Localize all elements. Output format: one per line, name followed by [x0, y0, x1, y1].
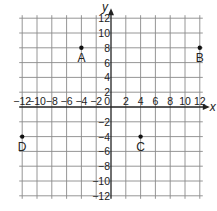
y-tick-label: 2	[104, 86, 110, 98]
point-label: B	[196, 51, 204, 65]
x-tick-label: 6	[152, 95, 158, 107]
y-tick-label: 8	[104, 42, 110, 54]
x-tick-label: −4	[75, 95, 87, 107]
point-label: C	[136, 140, 145, 154]
y-tick-label: −4	[98, 131, 110, 143]
point-A: A	[77, 46, 85, 65]
point-label: D	[18, 140, 27, 154]
x-tick-label: 8	[167, 95, 173, 107]
x-axis-label: x	[209, 100, 217, 114]
y-tick-label: 4	[104, 71, 110, 83]
coordinate-grid: xy −12−10−8−6−4−2024681012−12−10−8−6−4−2…	[0, 0, 217, 211]
x-tick-label: −8	[46, 95, 58, 107]
point-marker	[20, 134, 24, 138]
y-tick-label: −8	[98, 160, 110, 172]
y-tick-label: −2	[98, 116, 110, 128]
x-tick-label: −2	[90, 95, 102, 107]
x-tick-label: 10	[179, 95, 191, 107]
point-C: C	[136, 134, 145, 153]
x-tick-label: 12	[194, 95, 206, 107]
x-tick-label: −10	[28, 95, 46, 107]
y-tick-label: 6	[104, 57, 110, 69]
point-marker	[198, 46, 202, 50]
point-marker	[79, 46, 83, 50]
x-tick-label: 4	[138, 95, 144, 107]
point-B: B	[196, 46, 204, 65]
point-label: A	[77, 51, 85, 65]
point-marker	[138, 134, 142, 138]
point-D: D	[18, 134, 27, 153]
y-tick-label: 12	[98, 12, 110, 24]
y-tick-label: −12	[92, 190, 110, 202]
y-tick-label: 10	[98, 27, 110, 39]
x-tick-label: −6	[61, 95, 73, 107]
x-tick-label: 2	[123, 95, 129, 107]
y-tick-label: −6	[98, 145, 110, 157]
y-tick-label: −10	[92, 175, 110, 187]
